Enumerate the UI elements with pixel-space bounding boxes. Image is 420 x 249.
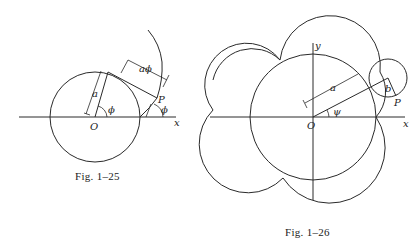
dimension-tick: [121, 60, 128, 73]
figures-canvas: O P a aϕ ϕ ϕ x Fig. 1–25 O P a b ψ: [0, 0, 420, 249]
angle-arc: [327, 110, 329, 117]
angle-center-label: ϕ: [108, 104, 115, 115]
radius-label: a: [92, 88, 98, 99]
radius-small-label: b: [385, 83, 391, 94]
x-axis-label: x: [174, 117, 180, 128]
figure-caption: Fig. 1–25: [75, 170, 120, 182]
figure-caption: Fig. 1–26: [285, 226, 330, 238]
tangent-line: [108, 72, 157, 98]
origin-label: O: [307, 120, 315, 131]
epicycloid-lobe-left: [199, 43, 283, 193]
origin-label: O: [90, 121, 98, 132]
figure-1-25: O P a aϕ ϕ ϕ x Fig. 1–25: [19, 30, 180, 182]
x-axis-label: x: [403, 118, 409, 129]
y-axis-label: y: [314, 40, 321, 51]
dimension-tick: [84, 113, 90, 115]
dimension-tick: [163, 75, 169, 87]
radius-big-label: a: [330, 82, 336, 93]
angle-label: ψ: [333, 106, 341, 117]
arc-length-label: aϕ: [139, 63, 152, 74]
point-label: P: [393, 97, 401, 108]
epicycloid-lobe-top-right: [280, 16, 386, 117]
epicycloid-lobe-top-left-cap: [213, 49, 280, 80]
figure-1-26: O P a b ψ x y Fig. 1–26: [199, 16, 409, 238]
dimension-tick: [303, 100, 307, 108]
angle-tangent-label: ϕ: [161, 104, 168, 115]
angle-arc-center: [98, 106, 107, 117]
epicycloid-lobe-bottom: [283, 117, 385, 203]
center-line: [313, 78, 388, 117]
